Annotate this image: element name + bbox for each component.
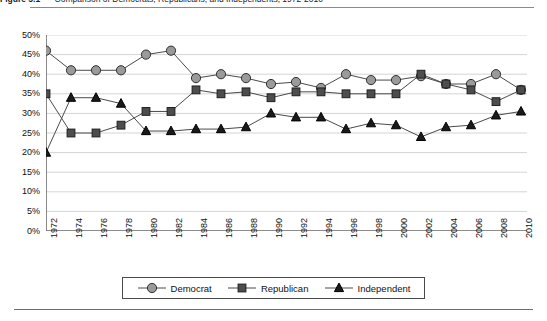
square-marker	[67, 129, 75, 137]
x-axis-tick-label: 1990	[275, 218, 284, 238]
chart-plot-area	[46, 35, 527, 231]
circle-marker	[137, 281, 167, 295]
y-axis-tick-label: 20%	[0, 148, 40, 157]
y-axis-tick-label: 30%	[0, 109, 40, 118]
footer-divider	[14, 309, 533, 310]
triangle-marker	[466, 120, 475, 129]
legend-item-independent[interactable]: Independent	[324, 281, 411, 295]
x-axis-tick-label: 1996	[350, 218, 359, 238]
legend-items: DemocratRepublicanIndependent	[123, 278, 424, 298]
figure-title-row: Figure 5.1 Comparison of Democrats, Repu…	[0, 0, 547, 6]
circle-marker	[391, 75, 400, 84]
circle-marker	[216, 70, 225, 79]
x-axis-tick-label: 1998	[375, 218, 384, 238]
y-axis-tick-label: 0%	[0, 227, 40, 236]
triangle-marker	[266, 108, 275, 117]
triangle-marker	[516, 106, 525, 115]
square-marker	[192, 86, 200, 94]
square-marker	[442, 80, 450, 88]
x-axis-tick-label: 1982	[175, 218, 184, 238]
circle-marker	[491, 70, 500, 79]
square-marker	[142, 108, 150, 116]
square-marker	[517, 86, 525, 94]
x-axis-tick-label: 2008	[500, 218, 509, 238]
x-axis-tick-label: 1978	[125, 218, 134, 238]
x-axis-tick-label: 2010	[525, 218, 534, 238]
triangle-marker	[334, 283, 343, 292]
page-title: Comparison of Democrats, Republicans, an…	[55, 0, 323, 4]
square-marker	[467, 86, 475, 94]
circle-marker	[141, 50, 150, 59]
series-democrat	[46, 46, 526, 94]
y-axis-tick-label: 45%	[0, 50, 40, 59]
x-axis-tick-label: 1974	[75, 218, 84, 238]
square-marker	[492, 98, 500, 106]
x-axis-tick-label: 1984	[200, 218, 209, 238]
square-marker	[46, 90, 50, 98]
square-marker	[227, 281, 257, 295]
circle-marker	[46, 46, 51, 55]
circle-marker	[191, 74, 200, 83]
circle-marker	[66, 66, 75, 75]
x-axis-tick-label: 2002	[425, 218, 434, 238]
square-marker	[242, 88, 250, 96]
square-marker	[292, 88, 300, 96]
figure-container: Figure 5.1 Comparison of Democrats, Repu…	[0, 0, 547, 321]
x-axis-tick-label: 1976	[100, 218, 109, 238]
square-marker	[317, 88, 325, 96]
circle-marker	[91, 66, 100, 75]
circle-marker	[241, 74, 250, 83]
square-marker	[342, 90, 350, 98]
square-marker	[392, 90, 400, 98]
triangle-marker	[366, 118, 375, 127]
square-marker	[167, 108, 175, 116]
circle-marker	[341, 70, 350, 79]
y-axis-tick-label: 15%	[0, 168, 40, 177]
y-axis-tick-label: 10%	[0, 187, 40, 196]
y-axis-tick-label: 50%	[0, 31, 40, 40]
square-marker	[417, 70, 425, 78]
triangle-marker	[324, 281, 354, 295]
x-axis-tick-label: 1988	[250, 218, 259, 238]
circle-marker	[291, 77, 300, 86]
y-axis-tick-label: 40%	[0, 70, 40, 79]
x-axis-tick-label: 2004	[450, 218, 459, 238]
square-marker	[238, 284, 246, 292]
square-marker	[92, 129, 100, 137]
circle-marker	[147, 283, 156, 292]
y-axis-tick-label: 25%	[0, 129, 40, 138]
chart-legend: DemocratRepublicanIndependent	[122, 277, 425, 299]
triangle-marker	[241, 122, 250, 131]
square-marker	[267, 94, 275, 102]
legend-item-republican[interactable]: Republican	[227, 281, 309, 295]
triangle-marker	[191, 124, 200, 133]
square-marker	[367, 90, 375, 98]
y-axis-tick-label: 35%	[0, 89, 40, 98]
square-marker	[217, 90, 225, 98]
x-axis-tick-label: 1994	[325, 218, 334, 238]
square-marker	[117, 121, 125, 129]
circle-marker	[166, 46, 175, 55]
legend-item-democrat[interactable]: Democrat	[137, 281, 212, 295]
x-axis-tick-label: 1986	[225, 218, 234, 238]
line-chart	[46, 35, 527, 231]
x-axis-tick-label: 1980	[150, 218, 159, 238]
circle-marker	[116, 66, 125, 75]
x-axis-tick-label: 1972	[50, 218, 59, 238]
triangle-marker	[46, 148, 51, 157]
figure-number-label: Figure 5.1	[0, 0, 40, 4]
y-axis-tick-label: 5%	[0, 207, 40, 216]
legend-label: Democrat	[171, 283, 212, 294]
circle-marker	[366, 75, 375, 84]
x-axis-tick-label: 1992	[300, 218, 309, 238]
title-divider	[30, 7, 534, 8]
x-axis-tick-label: 2006	[475, 218, 484, 238]
legend-label: Independent	[358, 283, 411, 294]
legend-label: Republican	[261, 283, 309, 294]
circle-marker	[266, 79, 275, 88]
x-axis-tick-label: 2000	[400, 218, 409, 238]
